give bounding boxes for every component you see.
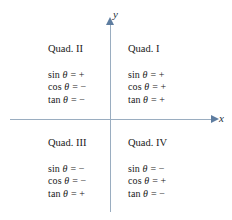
- sign-value: −: [80, 81, 86, 92]
- quadrant-2-tan-row: tanθ=−: [48, 94, 126, 107]
- quadrant-3-tan-row: tanθ=+: [48, 188, 126, 201]
- equals-symbol: =: [149, 175, 160, 186]
- sign-value: +: [160, 175, 166, 186]
- sign-value: +: [160, 81, 166, 92]
- quadrant-1-title: Quad. I: [128, 44, 206, 55]
- quadrant-4-block: Quad. IV sinθ=− cosθ=+ tanθ=−: [128, 138, 206, 200]
- quadrant-3-title: Quad. III: [48, 138, 126, 149]
- theta-symbol: θ: [60, 163, 68, 174]
- quadrant-4-tan-row: tanθ=−: [128, 188, 206, 201]
- x-axis-label: x: [219, 113, 224, 124]
- quadrant-4-cos-row: cosθ=+: [128, 175, 206, 188]
- sign-value: +: [159, 69, 165, 80]
- quadrant-2-block: Quad. II sinθ=+ cosθ=− tanθ=−: [48, 44, 126, 106]
- function-name: tan: [48, 94, 61, 105]
- function-name: tan: [128, 94, 141, 105]
- x-axis-arrowhead-icon: [211, 115, 219, 123]
- quadrant-4-title: Quad. IV: [128, 138, 206, 149]
- equals-symbol: =: [68, 94, 79, 105]
- quadrant-1-sin-row: sinθ=+: [128, 69, 206, 82]
- equals-symbol: =: [68, 188, 79, 199]
- equals-symbol: =: [148, 94, 159, 105]
- quadrant-2-cos-row: cosθ=−: [48, 81, 126, 94]
- quadrant-2-title: Quad. II: [48, 44, 126, 55]
- equals-symbol: =: [69, 175, 80, 186]
- quadrant-3-sin-row: sinθ=−: [48, 163, 126, 176]
- sign-value: −: [79, 94, 85, 105]
- function-name: sin: [48, 69, 60, 80]
- quadrant-1-block: Quad. I sinθ=+ cosθ=+ tanθ=+: [128, 44, 206, 106]
- function-name: tan: [128, 188, 141, 199]
- sign-value: +: [79, 69, 85, 80]
- function-name: sin: [128, 163, 140, 174]
- theta-symbol: θ: [141, 94, 149, 105]
- theta-symbol: θ: [141, 188, 149, 199]
- quadrant-3-block: Quad. III sinθ=− cosθ=− tanθ=+: [48, 138, 126, 200]
- theta-symbol: θ: [61, 188, 69, 199]
- theta-symbol: θ: [61, 94, 69, 105]
- function-name: tan: [48, 188, 61, 199]
- function-name: cos: [128, 81, 142, 92]
- quadrant-3-cos-row: cosθ=−: [48, 175, 126, 188]
- sign-value: −: [80, 175, 86, 186]
- equals-symbol: =: [68, 163, 79, 174]
- sign-value: −: [79, 163, 85, 174]
- function-name: cos: [48, 81, 62, 92]
- sign-value: +: [159, 94, 165, 105]
- equals-symbol: =: [149, 81, 160, 92]
- function-name: sin: [128, 69, 140, 80]
- x-axis-line: [10, 119, 215, 120]
- quadrant-2-sin-row: sinθ=+: [48, 69, 126, 82]
- theta-symbol: θ: [140, 69, 148, 80]
- quadrant-4-sin-row: sinθ=−: [128, 163, 206, 176]
- theta-symbol: θ: [60, 69, 68, 80]
- equals-symbol: =: [68, 69, 79, 80]
- y-axis-label: y: [113, 9, 118, 20]
- function-name: sin: [48, 163, 60, 174]
- equals-symbol: =: [69, 81, 80, 92]
- function-name: cos: [128, 175, 142, 186]
- sign-value: +: [79, 188, 85, 199]
- sign-value: −: [159, 163, 165, 174]
- sign-value: −: [159, 188, 165, 199]
- function-name: cos: [48, 175, 62, 186]
- equals-symbol: =: [148, 163, 159, 174]
- theta-symbol: θ: [140, 163, 148, 174]
- quadrant-1-cos-row: cosθ=+: [128, 81, 206, 94]
- trig-sign-quadrant-diagram: x y Quad. II sinθ=+ cosθ=− tanθ=− Quad. …: [0, 0, 232, 220]
- equals-symbol: =: [148, 69, 159, 80]
- quadrant-1-tan-row: tanθ=+: [128, 94, 206, 107]
- equals-symbol: =: [148, 188, 159, 199]
